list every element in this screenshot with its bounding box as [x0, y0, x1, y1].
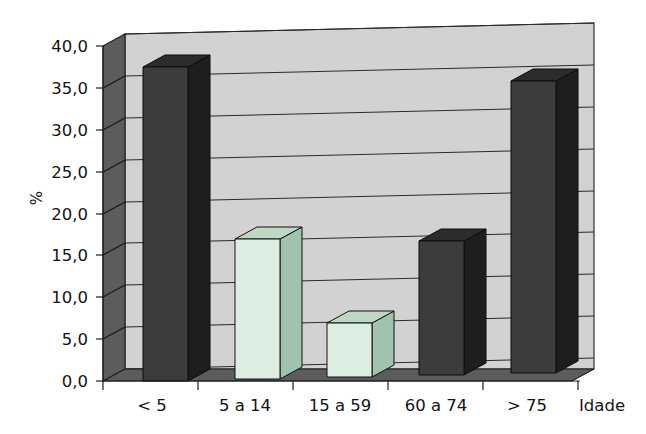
- bar-1-side: [280, 227, 302, 379]
- x-tick-marks: [103, 381, 578, 390]
- chart-svg: 40,0 35,0 30,0 25,0 20,0 15,0 10,0 5,0 0…: [0, 0, 646, 434]
- y-tick-label-0: 0,0: [62, 372, 88, 391]
- bar-4-side: [556, 69, 578, 373]
- y-tick-label-5: 5,0: [62, 330, 88, 349]
- y-tick-label-30: 30,0: [51, 121, 88, 140]
- y-tick-label-20: 20,0: [51, 205, 88, 224]
- x-tick-label-4: > 75: [507, 396, 547, 415]
- bar-group-4: [511, 69, 578, 373]
- bar-chart-figure: 40,0 35,0 30,0 25,0 20,0 15,0 10,0 5,0 0…: [0, 0, 646, 434]
- x-axis-title: Idade: [579, 396, 625, 415]
- bar-1-front: [235, 239, 280, 379]
- y-tick-marks: [96, 46, 103, 381]
- x-tick-label-1: 5 a 14: [219, 396, 271, 415]
- x-tick-labels: < 5 5 a 14 15 a 59 60 a 74 > 75: [137, 396, 547, 415]
- y-tick-label-25: 25,0: [51, 163, 88, 182]
- bar-2-front: [327, 323, 372, 377]
- bar-0-side: [188, 55, 210, 381]
- y-axis-title: %: [28, 191, 46, 205]
- x-tick-label-2: 15 a 59: [309, 396, 372, 415]
- bar-4-front: [511, 81, 556, 373]
- y-tick-label-40: 40,0: [51, 37, 88, 56]
- x-tick-label-0: < 5: [137, 396, 167, 415]
- y-tick-label-10: 10,0: [51, 288, 88, 307]
- bar-3-front: [419, 241, 464, 375]
- bar-group-0: [143, 55, 210, 381]
- bar-group-2: [327, 311, 394, 377]
- y-tick-label-35: 35,0: [51, 79, 88, 98]
- y-tick-label-15: 15,0: [51, 246, 88, 265]
- bar-0-front: [143, 67, 188, 381]
- bar-group-3: [419, 229, 486, 375]
- bar-3-side: [464, 229, 486, 375]
- y-tick-labels: 40,0 35,0 30,0 25,0 20,0 15,0 10,0 5,0 0…: [51, 37, 88, 391]
- bar-group-1: [235, 227, 302, 379]
- x-tick-label-3: 60 a 74: [405, 396, 468, 415]
